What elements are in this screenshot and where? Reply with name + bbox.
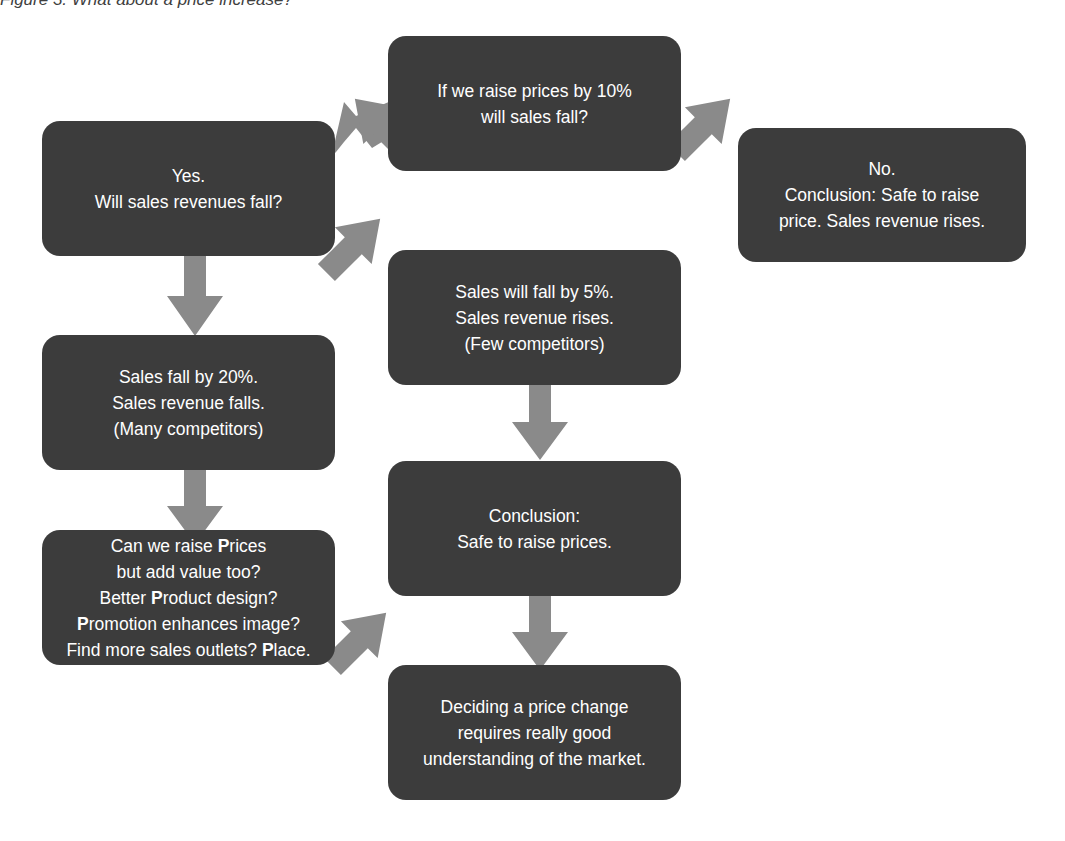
node-final-takeaway[interactable]: Deciding a price changerequires really g… — [388, 665, 681, 800]
node-four-ps-text: Can we raise Pricesbut add value too?Bet… — [56, 533, 321, 663]
node-few-competitors[interactable]: Sales will fall by 5%.Sales revenue rise… — [388, 250, 681, 385]
node-conclusion-safe[interactable]: Conclusion:Safe to raise prices. — [388, 461, 681, 596]
node-many-competitors-text: Sales fall by 20%.Sales revenue falls.(M… — [56, 364, 321, 442]
node-four-ps[interactable]: Can we raise Pricesbut add value too?Bet… — [42, 530, 335, 665]
arrow-few-competitors-to-conclusion — [511, 382, 569, 462]
figure-caption: Figure 3. What about a price increase? — [0, 0, 620, 12]
node-no-branch-text: No.Conclusion: Safe to raiseprice. Sales… — [752, 156, 1012, 234]
node-question-raise-prices[interactable]: If we raise prices by 10%will sales fall… — [388, 36, 681, 171]
node-no-branch[interactable]: No.Conclusion: Safe to raiseprice. Sales… — [738, 128, 1026, 262]
node-yes-branch-text: Yes.Will sales revenues fall? — [56, 163, 321, 215]
node-few-competitors-text: Sales will fall by 5%.Sales revenue rise… — [402, 279, 667, 357]
arrow-yes-to-many-competitors — [166, 252, 224, 338]
figure-canvas: Figure 3. What about a price increase? — [0, 0, 1065, 841]
node-question-raise-prices-text: If we raise prices by 10%will sales fall… — [402, 78, 667, 130]
node-conclusion-safe-text: Conclusion:Safe to raise prices. — [402, 503, 667, 555]
node-many-competitors[interactable]: Sales fall by 20%.Sales revenue falls.(M… — [42, 335, 335, 470]
node-yes-branch[interactable]: Yes.Will sales revenues fall? — [42, 121, 335, 256]
arrow-conclusion-to-takeaway — [511, 592, 569, 672]
node-final-takeaway-text: Deciding a price changerequires really g… — [402, 694, 667, 772]
